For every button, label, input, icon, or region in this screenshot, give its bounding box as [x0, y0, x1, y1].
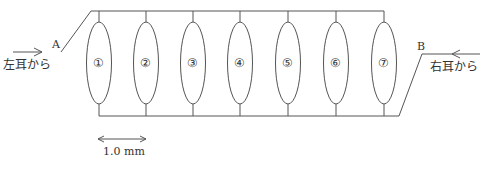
point-b-label: B — [417, 41, 425, 52]
right-input-label: 右耳から — [430, 61, 478, 73]
left-input-label: 左耳から — [3, 59, 51, 71]
point-a-label: A — [52, 39, 60, 50]
element-3-number: ③ — [187, 57, 198, 69]
element-4-number: ④ — [234, 57, 245, 69]
element-7-number: ⑦ — [378, 57, 389, 69]
element-2-number: ② — [140, 57, 151, 69]
element-6-number: ⑥ — [330, 57, 341, 69]
element-5-number: ⑤ — [282, 57, 293, 69]
scale-label: 1.0 mm — [103, 146, 145, 157]
element-1-number: ① — [93, 57, 104, 69]
circuit-diagram — [0, 0, 489, 169]
